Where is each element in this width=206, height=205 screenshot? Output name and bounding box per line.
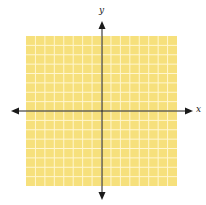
x-axis-left-arrow-icon	[11, 108, 19, 115]
y-axis-up-arrow-icon	[99, 21, 106, 29]
x-axis-right-arrow-icon	[185, 108, 193, 115]
y-axis-label: y	[99, 6, 104, 15]
y-axis-down-arrow-icon	[99, 192, 106, 200]
coordinate-plane	[0, 0, 206, 205]
x-axis-label: x	[196, 105, 201, 114]
